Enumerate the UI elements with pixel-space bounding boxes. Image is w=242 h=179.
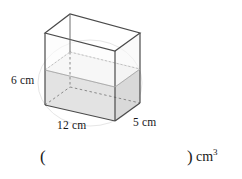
answer-row: ( ) cm3 xyxy=(0,146,242,172)
width-dimension-label: 5 cm xyxy=(133,116,156,128)
answer-input-blank[interactable] xyxy=(52,148,184,168)
worksheet-page: 6 cm 12 cm 5 cm ( ) cm3 xyxy=(0,0,242,179)
answer-close-paren: ) xyxy=(187,148,193,165)
answer-unit-exponent: 3 xyxy=(213,147,218,157)
answer-unit: cm3 xyxy=(196,150,218,164)
answer-open-paren: ( xyxy=(40,148,46,165)
height-dimension-label: 6 cm xyxy=(11,74,34,86)
length-dimension-label: 12 cm xyxy=(57,119,86,131)
answer-unit-base: cm xyxy=(196,149,213,164)
